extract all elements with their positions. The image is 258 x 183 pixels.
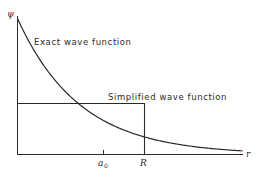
wave-function-diagram: ψ Exact wave function Simplified wave fu… [0,0,258,183]
simplified-wave-function-line [18,104,244,155]
exact-wave-function-label: Exact wave function [34,38,132,47]
y-axis-label: ψ [7,10,15,19]
R-label: R [140,159,147,168]
a0-label: a0 [98,159,108,169]
a0-label-subscript: 0 [104,162,108,169]
x-axis-label: r [246,150,251,159]
simplified-wave-function-label: Simplified wave function [108,93,227,102]
